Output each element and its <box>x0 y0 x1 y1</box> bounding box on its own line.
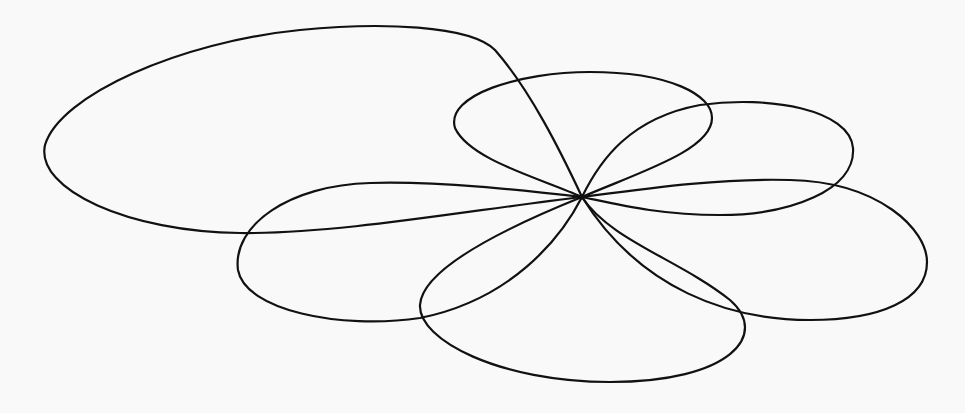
center-point <box>580 195 585 200</box>
flower-curve-diagram <box>0 0 965 413</box>
background <box>0 0 965 413</box>
